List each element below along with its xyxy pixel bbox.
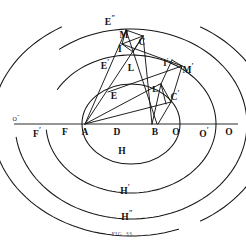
axis-point-F: F — [62, 128, 68, 138]
point-C: C — [139, 38, 146, 48]
prime-mark: ″ — [129, 209, 133, 218]
prime-mark: ′ — [167, 56, 169, 63]
axis-point-O-double-prime: O″ — [12, 115, 19, 122]
axis-point-F-prime: F′ — [33, 127, 41, 140]
label-text: M — [182, 65, 191, 75]
label-text: C — [139, 37, 146, 47]
label-text: D — [114, 127, 121, 137]
point-L-prime: L′ — [152, 83, 160, 93]
label-text: M — [119, 30, 128, 40]
line-segments-group — [85, 30, 182, 124]
figure-33-container: O″F′FADBOO′OE″MCIE′LI′M′L′C′EHH′H″ FIG. … — [0, 0, 246, 249]
label-text: O — [172, 127, 180, 137]
prime-mark: ′ — [191, 62, 193, 71]
axis-point-O-prime: O′ — [199, 127, 209, 140]
label-text: E — [111, 91, 117, 101]
label-text: L — [128, 63, 134, 73]
label-text: H — [118, 146, 126, 156]
figure-caption: FIG. 33. — [0, 231, 246, 237]
point-I-prime: I′ — [163, 57, 168, 67]
segment-quadp-Lp-down — [161, 84, 166, 104]
point-L: L — [128, 64, 134, 74]
point-M-prime: M′ — [182, 63, 193, 76]
point-E: E — [111, 92, 117, 102]
axis-point-O-outer: O — [225, 128, 233, 138]
label-text: C — [170, 92, 177, 102]
prime-mark: ′ — [128, 183, 130, 192]
prime-mark: ′ — [39, 126, 41, 135]
point-H: H — [118, 147, 126, 157]
arc-outermost-arc-left — [0, 27, 61, 155]
prime-mark: ″ — [17, 114, 20, 119]
label-text: H — [121, 212, 129, 222]
axis-point-O: O — [172, 128, 180, 138]
prime-mark: ′ — [158, 82, 160, 89]
label-text: O — [225, 127, 233, 137]
prime-mark: ″ — [111, 14, 115, 23]
axis-point-B: B — [152, 128, 158, 138]
label-text: I — [118, 44, 122, 54]
label-text: B — [152, 127, 158, 137]
label-text: F — [62, 127, 68, 137]
label-text: A — [82, 127, 89, 137]
axis-point-A: A — [82, 128, 89, 138]
label-text: O — [199, 129, 207, 139]
segment-A-to-Cprime — [85, 102, 171, 124]
point-E-double-prime: E″ — [105, 15, 116, 28]
point-C-prime: C′ — [170, 90, 179, 103]
prime-mark: ′ — [107, 58, 109, 67]
axis-point-D: D — [114, 128, 121, 138]
point-M: M — [119, 31, 128, 41]
point-E-prime: E′ — [101, 59, 110, 72]
label-text: H — [120, 186, 128, 196]
point-H-double-prime: H″ — [121, 210, 133, 223]
prime-mark: ′ — [207, 126, 209, 135]
point-H-prime: H′ — [120, 184, 130, 197]
segment-C-to-B — [143, 36, 152, 124]
segment-quad-M-C — [126, 30, 143, 36]
prime-mark: ′ — [177, 89, 179, 98]
point-I: I — [118, 45, 122, 55]
